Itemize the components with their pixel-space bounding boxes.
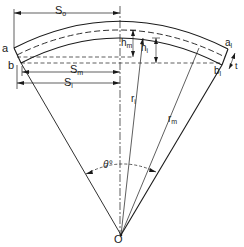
rm-line: [121, 48, 199, 235]
right-end-cap: [222, 49, 228, 65]
label-t: t: [235, 62, 238, 71]
label-b1: bl: [214, 66, 221, 77]
label-theta: θ°: [103, 160, 112, 170]
label-s-m: Sm: [70, 64, 83, 76]
label-s-o: So: [55, 5, 66, 17]
label-r-i: ri: [131, 94, 136, 105]
label-h-i: hi: [141, 43, 148, 54]
label-r-m: rm: [168, 114, 177, 125]
label-h-m: hm: [121, 38, 132, 49]
right-radius: [121, 65, 222, 235]
arc-geometry-diagram: So Sm Si a b hm hi al bl t ri rm θ° O: [0, 0, 244, 247]
label-s-i: Si: [64, 77, 73, 89]
label-a1: al: [225, 38, 232, 49]
ri-line: [121, 38, 143, 235]
label-b: b: [8, 60, 14, 71]
theta-arc: [86, 164, 156, 174]
label-origin-o: O: [114, 234, 123, 245]
label-a: a: [2, 43, 8, 54]
left-end-cap: [14, 48, 21, 63]
